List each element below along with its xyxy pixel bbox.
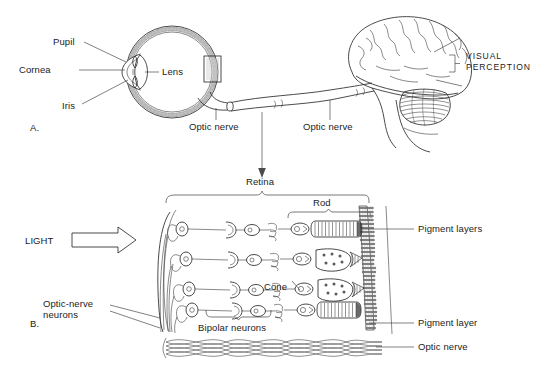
- label-pigment-layer: Pigment layer: [418, 317, 477, 328]
- receptor-terminal-brush: [270, 253, 279, 271]
- optic-nerve-cut-ring: [227, 102, 233, 111]
- optic-tract-ring-1: [274, 101, 276, 109]
- synaptic-cup: [228, 252, 238, 268]
- rod-body: [317, 302, 361, 318]
- synaptic-cup-inner: [230, 255, 235, 265]
- ganglion-cell-body: [180, 252, 192, 266]
- label-optic-nerve-b: Optic nerve: [418, 341, 468, 352]
- label-pigment-layers: Pigment layers: [418, 223, 482, 234]
- panel-b-letter: B.: [30, 318, 39, 329]
- ganglion-axon: [176, 306, 187, 323]
- ganglion-cell-body: [183, 282, 195, 296]
- photoreceptor-row: [176, 302, 361, 322]
- ganglion-to-bipolar-fiber: [188, 229, 226, 230]
- brainstem-fold: [404, 128, 438, 134]
- cone-granules: [323, 253, 344, 266]
- rod-outer-segment: [311, 221, 362, 237]
- label-light: LIGHT: [25, 235, 53, 246]
- label-visual-perception-line1: VISUAL: [466, 51, 502, 62]
- retina-brace: [166, 191, 369, 203]
- fiber-bundle-left-cap: [163, 338, 166, 358]
- receptor-inner-segment: [291, 223, 309, 235]
- optic-tract-ring-2: [281, 100, 283, 108]
- brainstem-anterior: [372, 88, 396, 148]
- optic-tract-upper-edge: [231, 83, 372, 103]
- cone-outer-segment: [318, 279, 364, 301]
- light-arrow-shape: [72, 227, 136, 253]
- eye-visual-pathway-figure: Pupil Cornea Iris Lens Optic nerve Optic…: [0, 0, 533, 382]
- cone-outer-segment: [316, 249, 362, 271]
- optic-nerve-tract: [231, 83, 374, 111]
- receptor-terminal-brush: [274, 304, 283, 322]
- label-pupil: Pupil: [53, 36, 75, 47]
- receptor-inner-segment: [293, 253, 311, 265]
- brain-gyri: [358, 19, 467, 82]
- label-cone: Cone: [264, 281, 287, 292]
- cone-ellipsoid: [318, 279, 353, 301]
- rod-striations: [315, 222, 357, 236]
- optic-tract-ring-4: [363, 88, 365, 96]
- visual-perception-pointer-lower: [436, 80, 462, 86]
- optic-nerve-axon-bundle: [160, 234, 177, 333]
- label-iris: Iris: [62, 100, 75, 111]
- retina-region-box-fill: [206, 58, 219, 80]
- synaptic-cup-inner: [228, 225, 233, 235]
- ganglion-cell-body: [176, 222, 188, 236]
- light-arrow: [72, 227, 136, 253]
- label-visual-perception-line2: PERCEPTION: [466, 62, 531, 73]
- rod-outer-segment: [317, 302, 361, 318]
- label-lens: Lens: [162, 66, 183, 77]
- retina-outer-boundary: [386, 206, 392, 334]
- ganglion-to-bipolar-fiber: [195, 289, 230, 290]
- label-cornea: Cornea: [19, 64, 51, 75]
- rod-brace: [288, 209, 371, 218]
- optic-nerve-fiber-weave: [163, 338, 382, 358]
- panel-a-letter: A.: [30, 122, 39, 133]
- label-rod: Rod: [313, 197, 331, 208]
- rod-striations: [321, 303, 356, 317]
- leader-pupil: [84, 42, 126, 62]
- photoreceptor-row: [167, 221, 362, 241]
- leader-optic-nerve-neurons-a: [110, 305, 160, 318]
- optic-tract-ring-3: [356, 89, 358, 97]
- panel-a-leader-lines: [79, 42, 330, 120]
- retina-brace-path: [166, 191, 369, 203]
- label-bipolar-neurons: Bipolar neurons: [198, 322, 266, 333]
- label-optic-nerve-neurons-line1: Optic-nerve: [43, 298, 93, 309]
- leader-iris: [82, 80, 128, 104]
- ganglion-cell-body: [186, 303, 198, 317]
- cone-ellipsoid: [316, 249, 351, 271]
- cerebrum-outline: [349, 17, 472, 99]
- optic-tract-lower-edge: [231, 91, 374, 111]
- ganglion-axon: [173, 285, 184, 302]
- synaptic-cup: [230, 282, 240, 298]
- ganglion-to-bipolar-fiber: [198, 310, 232, 311]
- synaptic-cup: [226, 222, 236, 238]
- label-optic-nerve-neurons-line2: neurons: [43, 309, 78, 320]
- synaptic-cup-inner: [232, 285, 237, 295]
- retina-expansion-arrow: [258, 112, 266, 178]
- label-optic-nerve-brain: Optic nerve: [303, 121, 353, 132]
- synaptic-cup-inner: [234, 306, 239, 316]
- receptor-inner-segment: [295, 283, 313, 295]
- receptor-terminal-brush: [268, 223, 277, 241]
- ganglion-to-bipolar-fiber: [192, 259, 228, 260]
- leader-optic-nerve-neurons-b: [110, 311, 160, 328]
- visual-perception-bracket: [449, 55, 455, 72]
- label-retina: Retina: [246, 176, 274, 187]
- receptor-inner-segment: [297, 304, 315, 316]
- cone-granules: [325, 283, 346, 296]
- label-optic-nerve-eye: Optic nerve: [189, 121, 239, 132]
- photoreceptor-row: [170, 249, 362, 271]
- rod-brace-path: [288, 209, 371, 218]
